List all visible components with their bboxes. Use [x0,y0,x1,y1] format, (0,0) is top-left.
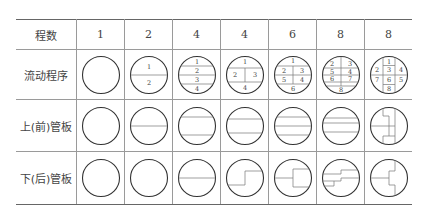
top-plate-8-pass-horizontal [317,100,365,152]
passes-cell: 8 [317,20,365,50]
svg-text:8: 8 [338,86,342,94]
top-plate-4h-icon [177,106,217,146]
svg-text:6: 6 [386,76,390,84]
tube-pass-table: 程数 1 2 4 4 6 8 8 流动程序 1 2 [16,19,412,205]
svg-text:8: 8 [386,84,390,92]
bottom-tubesheet-label: 下(后)管板 [16,152,77,205]
top-plate-4c-icon [225,106,265,146]
top-plate-6-pass [269,100,317,152]
passes-label: 程数 [16,20,77,50]
flow-diagram-4-pass-cross: 1 2 3 4 [221,50,269,100]
svg-text:2: 2 [194,66,198,74]
flow-sequence-label: 流动程序 [16,50,77,100]
svg-text:1: 1 [242,58,246,66]
bottom-plate-6-pass [269,152,317,205]
flow-sequence-row: 流动程序 1 2 1 2 3 [16,50,412,100]
four-pass-cross-plate-icon: 1 2 3 4 [225,55,265,95]
svg-text:3: 3 [299,66,303,74]
top-tubesheet-row: 上(前)管板 [16,100,412,152]
svg-text:7: 7 [347,74,351,82]
bottom-plate-8-pass-vertical [365,152,413,205]
top-plate-8h-icon [321,106,361,146]
top-plate-4-pass-horizontal [173,100,221,152]
four-pass-horizontal-plate-icon: 1 2 3 4 [177,55,217,95]
bottom-plate-4h-icon [177,158,217,198]
passes-cell: 6 [269,20,317,50]
svg-text:1: 1 [146,63,150,71]
six-pass-plate-icon: 1 2 3 4 5 6 [273,55,313,95]
svg-text:2: 2 [232,71,236,79]
top-plate-8-pass-vertical [365,100,413,152]
flow-diagram-8-pass-horizontal: 2 3 5 4 6 7 8 [317,50,365,100]
flow-diagram-8-pass-vertical: 1 2 3 4 5 6 7 8 [365,50,413,100]
top-plate-8v-icon [369,106,409,146]
top-plate-4-pass-cross [221,100,269,152]
passes-cell: 4 [173,20,221,50]
bottom-plate-8v-icon [369,158,409,198]
svg-text:1: 1 [194,57,198,65]
passes-row: 程数 1 2 4 4 6 8 8 [16,20,412,50]
top-tubesheet-label: 上(前)管板 [16,100,77,152]
svg-text:4: 4 [398,66,402,74]
svg-text:3: 3 [194,75,198,83]
top-plate-1-pass [77,100,125,152]
passes-cell: 2 [125,20,173,50]
top-plate-2-pass-icon [129,106,169,146]
svg-text:3: 3 [252,71,256,79]
top-plate-2-pass [125,100,173,152]
bottom-tubesheet-row: 下(后)管板 [16,152,412,205]
circle-plate-icon [81,55,121,95]
svg-text:2: 2 [374,66,378,74]
bottom-plate-8-pass-horizontal [317,152,365,205]
circle-plate-icon [81,158,121,198]
bottom-plate-4c-icon [225,158,265,198]
bottom-plate-4-pass-cross [221,152,269,205]
flow-diagram-1-pass [77,50,125,100]
circle-plate-icon [129,158,169,198]
svg-text:5: 5 [281,75,285,83]
svg-text:5: 5 [398,76,402,84]
svg-text:4: 4 [242,84,246,92]
svg-text:6: 6 [329,74,333,82]
two-pass-plate-icon: 1 2 [129,55,169,95]
bottom-plate-2-pass [125,152,173,205]
passes-cell: 8 [365,20,413,50]
flow-diagram-6-pass: 1 2 3 4 5 6 [269,50,317,100]
svg-text:1: 1 [290,57,294,65]
eight-pass-vertical-plate-icon: 1 2 3 4 5 6 7 8 [369,55,409,95]
svg-text:2: 2 [281,66,285,74]
svg-text:3: 3 [386,66,390,74]
eight-pass-horizontal-plate-icon: 2 3 5 4 6 7 8 [321,55,361,95]
svg-text:6: 6 [290,85,294,93]
svg-text:7: 7 [374,76,378,84]
circle-plate-icon [81,106,121,146]
flow-diagram-2-pass: 1 2 [125,50,173,100]
svg-text:4: 4 [299,75,303,83]
bottom-plate-4-pass-horizontal [173,152,221,205]
svg-text:4: 4 [194,84,198,92]
flow-diagram-4-pass-horizontal: 1 2 3 4 [173,50,221,100]
top-plate-6-icon [273,106,313,146]
bottom-plate-8h-icon [321,158,361,198]
passes-cell: 1 [77,20,125,50]
passes-cell: 4 [221,20,269,50]
bottom-plate-1-pass [77,152,125,205]
svg-text:2: 2 [146,79,150,87]
bottom-plate-6-icon [273,158,313,198]
svg-text:1: 1 [386,57,390,65]
